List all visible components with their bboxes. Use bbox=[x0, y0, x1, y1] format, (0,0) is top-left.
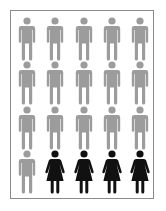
male-figure-icon bbox=[129, 106, 151, 150]
female-figure-icon bbox=[129, 150, 151, 194]
male-figure-icon bbox=[73, 17, 95, 61]
pictogram-grid bbox=[11, 11, 153, 198]
male-figure-icon bbox=[101, 106, 123, 150]
female-figure-icon bbox=[44, 150, 66, 194]
male-figure-icon bbox=[129, 17, 151, 61]
male-figure-icon bbox=[129, 61, 151, 105]
male-figure-icon bbox=[44, 106, 66, 150]
male-figure-icon bbox=[16, 106, 38, 150]
male-figure-icon bbox=[73, 106, 95, 150]
male-figure-icon bbox=[16, 61, 38, 105]
male-figure-icon bbox=[16, 17, 38, 61]
male-figure-icon bbox=[101, 17, 123, 61]
male-figure-icon bbox=[101, 61, 123, 105]
male-figure-icon bbox=[44, 17, 66, 61]
male-figure-icon bbox=[44, 61, 66, 105]
female-figure-icon bbox=[73, 150, 95, 194]
male-figure-icon bbox=[16, 150, 38, 194]
female-figure-icon bbox=[101, 150, 123, 194]
male-figure-icon bbox=[73, 61, 95, 105]
chart-frame: 16 of 20 figures male (gray), 4 of 20 fe… bbox=[10, 10, 154, 199]
